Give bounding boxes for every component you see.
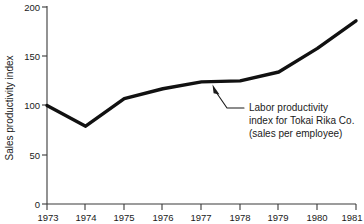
y-tick-label-150: 150 — [24, 51, 40, 62]
x-tick-label-1976: 1976 — [152, 212, 173, 223]
x-tick-label-1973: 1973 — [37, 212, 58, 223]
annotation-text-block: Labor productivity index for Tokai Rika … — [249, 102, 354, 139]
x-tick-label-1975: 1975 — [113, 212, 134, 223]
x-tick-label-1980: 1980 — [306, 212, 327, 223]
y-tick-label-50: 50 — [29, 150, 40, 161]
leader-line-path — [216, 92, 244, 108]
y-axis-title: Sales productivity index — [4, 55, 15, 160]
line-chart: Sales productivity index 200 150 100 50 … — [0, 0, 364, 224]
x-tick-label-1977: 1977 — [190, 212, 211, 223]
x-tick-label-1978: 1978 — [229, 212, 250, 223]
annotation-leader — [213, 85, 245, 109]
x-tick-label-1981: 1981 — [341, 212, 362, 223]
y-tick-label-0: 0 — [35, 199, 40, 210]
y-axis-tick-labels: 200 150 100 50 0 — [24, 2, 40, 210]
x-tick-label-1974: 1974 — [75, 212, 96, 223]
annotation-line-3: (sales per employee) — [249, 128, 342, 139]
y-tick-label-200: 200 — [24, 2, 40, 13]
annotation-line-2: index for Tokai Rika Co. — [249, 115, 354, 126]
y-tick-label-100: 100 — [24, 100, 40, 111]
x-axis-ticks — [47, 204, 356, 210]
arrow-head-icon — [213, 85, 220, 95]
x-tick-label-1979: 1979 — [267, 212, 288, 223]
annotation-line-1: Labor productivity — [249, 102, 328, 113]
x-axis-tick-labels: 1973 1974 1975 1976 1977 1978 1979 1980 … — [37, 212, 362, 223]
chart-container: Sales productivity index 200 150 100 50 … — [0, 0, 364, 224]
